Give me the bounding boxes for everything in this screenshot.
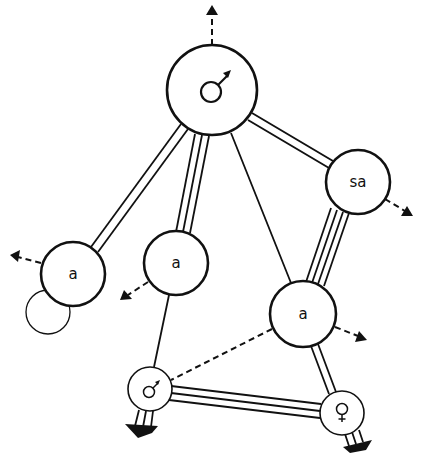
node-top-male — [167, 45, 257, 135]
arrowhead-icon — [206, 5, 218, 15]
node-middle-a: a — [144, 231, 208, 295]
heavy-arrowhead-icon — [125, 424, 158, 438]
arrowhead-icon — [10, 250, 20, 262]
edge-right-a-to-female — [311, 344, 336, 394]
arrow-from-middle-a — [120, 282, 148, 300]
node-label: sa — [349, 173, 366, 191]
nodes: sa a a a — [26, 45, 390, 435]
edge-middle-a-to-bottom-male — [154, 295, 169, 367]
node-left-a: a — [41, 242, 105, 306]
arrow-up-from-top — [206, 5, 218, 45]
relationship-diagram: sa a a a — [0, 0, 421, 464]
node-label: a — [68, 265, 77, 283]
edge-top-to-sa — [248, 113, 333, 168]
edge-top-to-right-a — [231, 133, 291, 283]
arrow-from-left-a — [10, 250, 41, 263]
edges — [91, 113, 349, 418]
node-female — [320, 391, 364, 435]
node-bottom-male — [128, 367, 172, 411]
node-label: a — [298, 305, 307, 323]
arrowhead-icon — [401, 206, 413, 216]
arrow-from-right-a — [335, 327, 367, 342]
node-label: a — [171, 254, 180, 272]
edge-bottom-male-to-female — [169, 386, 321, 418]
edge-top-to-middle-a — [176, 134, 209, 233]
arrowhead-icon — [120, 290, 132, 300]
node-sa: sa — [326, 150, 390, 214]
heavy-arrow-bottom-male — [125, 410, 158, 438]
node-right-a: a — [270, 281, 336, 347]
edge-right-a-to-bottom-male — [171, 329, 272, 380]
edge-sa-to-right-a — [306, 208, 349, 286]
arrow-from-sa — [385, 199, 413, 216]
